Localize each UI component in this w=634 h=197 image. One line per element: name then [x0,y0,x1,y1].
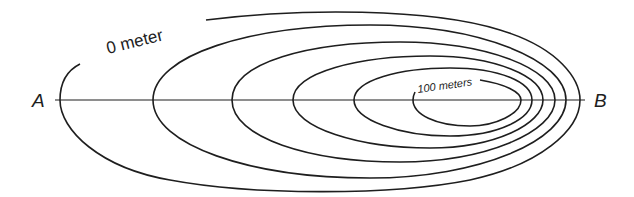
inner-contour-label: 100 meters [417,75,474,95]
point-b-label: B [594,90,607,111]
contour-3 [232,42,555,162]
point-a-label: A [31,90,45,111]
contour-5 [354,68,532,136]
contour-2 [153,25,566,178]
outer-contour-label: 0 meter [104,25,165,57]
contour-diagram: A B 0 meter 100 meters [0,0,634,197]
